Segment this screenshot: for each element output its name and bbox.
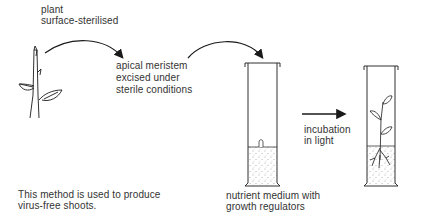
incubation-label-line1: incubation [304, 124, 351, 135]
note-line2: virus-free shoots. [18, 200, 97, 211]
plant-cutting-icon [19, 46, 62, 118]
arrow-transfer [188, 42, 262, 58]
test-tube-medium-icon [245, 63, 280, 186]
medium-label-line1: nutrient medium with [226, 190, 320, 201]
diagram-canvas [0, 0, 421, 218]
medium-label-line2: growth regulators [226, 201, 305, 212]
note-line1: This method is used to produce [18, 189, 161, 200]
excision-label-line2: excised under [116, 72, 180, 83]
incubation-label-line2: in light [304, 135, 334, 146]
plant-label-line1: plant [41, 4, 63, 15]
arrow-excise [45, 41, 122, 57]
plant-label-line2: surface-sterilised [41, 15, 118, 26]
excision-label-line1: apical meristem [116, 60, 188, 71]
excision-label-line3: sterile conditions [116, 84, 192, 95]
test-tube-plantlet-icon [364, 66, 398, 186]
